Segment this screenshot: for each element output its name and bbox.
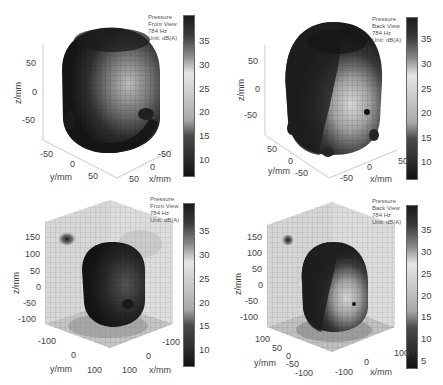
x-tick: 0 xyxy=(150,163,155,172)
colorbar-tick: 30 xyxy=(421,59,432,69)
plot-front-view-projections: Pressure Front View 784 Hz Unit: dB(A) 3… xyxy=(0,192,222,384)
z-tick: 0 xyxy=(255,85,260,94)
x-tick: 100 xyxy=(122,366,137,375)
z-axis-label: z/mm xyxy=(234,273,243,295)
colorbar-tick: 15 xyxy=(199,131,210,141)
x-tick: -50 xyxy=(340,174,353,183)
plot-back-view-projections: Pressure Back View 784 Hz Unit: dB(A) 35… xyxy=(222,192,443,384)
z-tick: 100 xyxy=(25,250,40,259)
colorbar-tick: 5 xyxy=(421,356,426,366)
y-tick: 50 xyxy=(88,172,98,181)
x-axis-label: x/mm xyxy=(370,175,392,184)
y-tick: 50 xyxy=(267,145,277,154)
z-tick: 50 xyxy=(248,57,258,66)
x-tick: 50 xyxy=(129,175,139,184)
colorbar-tick: 30 xyxy=(199,60,210,70)
colorbar-tick: 25 xyxy=(421,269,432,279)
z-tick: -100 xyxy=(240,313,258,322)
y-tick: 50 xyxy=(272,344,282,353)
y-tick: -100 xyxy=(295,369,313,378)
y-tick: 0 xyxy=(70,160,75,169)
z-tick: 50 xyxy=(26,59,36,68)
z-axis-label: z/mm xyxy=(12,272,21,294)
z-axis-label: z/mm xyxy=(237,79,246,101)
x-tick: 100 xyxy=(394,349,409,358)
z-tick: -50 xyxy=(245,297,258,306)
colorbar-tick: 10 xyxy=(199,155,210,165)
colorbar-tick: 35 xyxy=(199,36,210,46)
x-axis-label: x/mm xyxy=(370,368,392,377)
z-tick: 150 xyxy=(247,233,262,242)
z-tick: 100 xyxy=(247,249,262,258)
z-tick: -50 xyxy=(22,116,35,125)
y-tick: -50 xyxy=(295,169,308,178)
colorbar-tick: 20 xyxy=(199,107,210,117)
colorbar-tick: 25 xyxy=(199,274,210,284)
x-axis-label: x/mm xyxy=(149,175,171,184)
y-tick: -50 xyxy=(40,150,53,159)
y-axis-label: y/mm xyxy=(254,359,276,368)
colorbar-tick: 10 xyxy=(199,345,210,355)
y-axis-label: y/mm xyxy=(268,167,290,176)
colorbar-tick: 30 xyxy=(421,247,432,257)
colorbar-tick: 15 xyxy=(199,321,210,331)
colorbar-tick: 35 xyxy=(421,225,432,235)
z-tick: 50 xyxy=(30,267,40,276)
y-tick: 100 xyxy=(87,366,102,375)
z-tick: -50 xyxy=(23,299,36,308)
colorbar xyxy=(183,15,195,177)
y-tick: 0 xyxy=(288,157,293,166)
colorbar xyxy=(183,203,195,367)
z-tick: -100 xyxy=(18,315,36,324)
x-tick: -100 xyxy=(335,368,353,377)
plot-annotation: Pressure Back View 784 Hz Unit: dB(A) xyxy=(372,198,401,226)
x-tick: -100 xyxy=(162,338,180,347)
z-axis-label: z/mm xyxy=(14,82,23,104)
z-tick: -50 xyxy=(244,111,257,120)
z-tick: 0 xyxy=(258,281,263,290)
y-tick: -100 xyxy=(38,337,56,346)
z-tick: 0 xyxy=(32,88,37,97)
colorbar-tick: 30 xyxy=(199,250,210,260)
x-tick: 0 xyxy=(367,163,372,172)
colorbar-tick: 20 xyxy=(199,298,210,308)
colorbar-tick: 25 xyxy=(421,84,432,94)
y-tick: 100 xyxy=(255,335,270,344)
x-tick: 0 xyxy=(146,352,151,361)
plot-annotation: Pressure Back View 784 Hz Unit: dB(A) xyxy=(372,16,401,44)
colorbar-tick: 35 xyxy=(421,34,432,44)
colorbar-tick: 20 xyxy=(421,108,432,118)
colorbar-tick: 10 xyxy=(421,334,432,344)
y-axis-label: y/mm xyxy=(50,365,72,374)
z-tick: 50 xyxy=(252,265,262,274)
z-tick: 0 xyxy=(36,283,41,292)
x-axis-label: x/mm xyxy=(149,366,171,375)
colorbar xyxy=(406,205,418,369)
x-tick: 50 xyxy=(398,157,408,166)
plot-back-view: Pressure Back View 784 Hz Unit: dB(A) 35… xyxy=(222,0,443,192)
colorbar-tick: 15 xyxy=(421,312,432,322)
colorbar-tick: 20 xyxy=(421,291,432,301)
y-tick: 0 xyxy=(71,351,76,360)
colorbar-tick: 15 xyxy=(421,133,432,143)
x-tick: -50 xyxy=(158,150,171,159)
z-tick: 150 xyxy=(25,233,40,242)
plot-annotation: Pressure Front View 784 Hz Unit: dB(A) xyxy=(148,14,177,42)
plot-front-view: Pressure Front View 784 Hz Unit: dB(A) 3… xyxy=(0,0,222,192)
plot-annotation: Pressure Front View 784 Hz Unit: dB(A) xyxy=(150,196,179,224)
y-axis-label: y/mm xyxy=(50,173,72,182)
colorbar-tick: 25 xyxy=(199,84,210,94)
colorbar-tick: 35 xyxy=(199,226,210,236)
x-tick: 0 xyxy=(364,358,369,367)
colorbar-tick: 10 xyxy=(421,157,432,167)
